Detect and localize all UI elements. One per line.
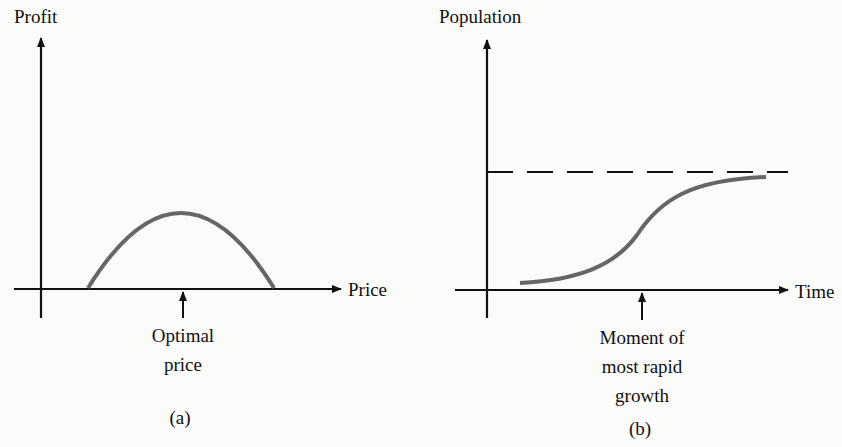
caption-a: (a) xyxy=(150,407,210,428)
panel-a xyxy=(14,38,341,318)
annotation-a-line1: Optimal xyxy=(133,325,233,346)
profit-curve xyxy=(88,213,274,288)
y-label-b: Population xyxy=(439,6,521,27)
annotation-b-line2: most rapid xyxy=(582,356,702,377)
annotation-b-line1: Moment of xyxy=(582,327,702,348)
population-curve xyxy=(520,177,766,283)
x-label-b: Time xyxy=(795,281,834,302)
panel-b xyxy=(455,40,788,320)
caption-b: (b) xyxy=(610,418,670,439)
annotation-b-line3: growth xyxy=(582,385,702,406)
x-label-a: Price xyxy=(348,279,387,300)
annotation-a-line2: price xyxy=(133,354,233,375)
diagram-canvas xyxy=(0,0,842,447)
y-label-a: Profit xyxy=(14,6,57,27)
